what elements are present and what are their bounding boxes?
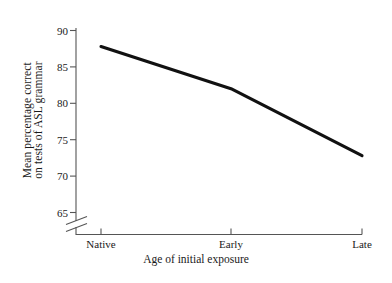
y-axis-title-line-2: on tests of ASL grammar [33, 61, 45, 179]
chart-container: 90 85 80 75 70 65 Native Early Late Age … [0, 0, 392, 283]
x-tick-label-late: Late [352, 239, 372, 250]
y-tick-label-65: 65 [46, 207, 68, 218]
x-tick-label-early: Early [219, 239, 243, 250]
y-axis-ticks [70, 31, 76, 213]
x-axis-title: Age of initial exposure [143, 254, 249, 266]
y-tick-label-90: 90 [46, 25, 68, 36]
y-tick-label-70: 70 [46, 171, 68, 182]
y-axis-break-icon [66, 213, 87, 235]
y-tick-label-85: 85 [46, 61, 68, 72]
data-line-series-1 [101, 47, 362, 156]
x-tick-label-native: Native [86, 239, 115, 250]
y-tick-label-80: 80 [46, 98, 68, 109]
y-axis-title: Mean percentage correct on tests of ASL … [18, 61, 48, 179]
x-axis-ticks [101, 229, 231, 235]
y-tick-label-75: 75 [46, 134, 68, 145]
